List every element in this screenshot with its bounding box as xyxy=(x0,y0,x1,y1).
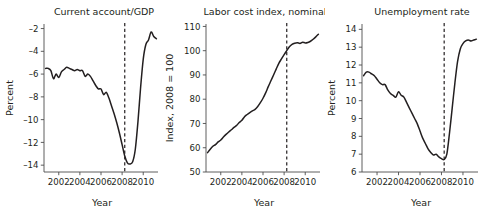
y-tick-label: 60 xyxy=(190,143,201,153)
y-tick-label: 10 xyxy=(346,96,357,106)
y-tick-label: –4 xyxy=(29,46,39,56)
x-tick-label: 2004 xyxy=(388,177,410,187)
x-tick-label: 2010 xyxy=(132,177,154,187)
x-tick-label: 2002 xyxy=(366,177,388,187)
y-axis-title: Percent xyxy=(326,80,337,116)
y-tick-label: 7 xyxy=(351,149,356,159)
series-line xyxy=(364,39,477,160)
x-axis-ticks: 20022004200620082010 xyxy=(366,172,474,187)
y-tick-label: –12 xyxy=(23,138,38,148)
y-axis-ticks: –2–4–6–8–10–12–14 xyxy=(23,24,44,171)
x-tick-label: 2002 xyxy=(48,177,70,187)
y-tick-label: 110 xyxy=(184,22,200,32)
y-tick-label: –8 xyxy=(29,92,39,102)
y-tick-label: 50 xyxy=(190,167,201,177)
x-tick-label: 2008 xyxy=(273,177,295,187)
panel-title: Labor cost index, nominal xyxy=(204,6,325,17)
x-tick-label: 2010 xyxy=(452,177,474,187)
y-tick-label: –2 xyxy=(29,24,39,34)
chart-panel-1: Current account/GDP–2–4–6–8–10–12–142002… xyxy=(0,0,163,218)
y-tick-label: 12 xyxy=(346,60,357,70)
series-line xyxy=(208,34,319,152)
x-tick-label: 2010 xyxy=(294,177,316,187)
y-tick-label: 13 xyxy=(346,42,357,52)
y-tick-label: 11 xyxy=(346,78,357,88)
x-tick-label: 2006 xyxy=(252,177,274,187)
x-tick-label: 2002 xyxy=(210,177,232,187)
x-tick-label: 2008 xyxy=(431,177,453,187)
x-tick-label: 2006 xyxy=(409,177,431,187)
figure-three-panel-line-charts: Current account/GDP–2–4–6–8–10–12–142002… xyxy=(0,0,489,218)
panel-title: Current account/GDP xyxy=(54,6,154,17)
x-axis-title: Year xyxy=(91,197,112,208)
y-tick-label: 8 xyxy=(351,131,356,141)
y-tick-label: 90 xyxy=(190,70,201,80)
x-tick-label: 2004 xyxy=(231,177,253,187)
x-axis-ticks: 20022004200620082010 xyxy=(48,172,154,187)
y-tick-label: –6 xyxy=(29,69,39,79)
x-axis-title: Year xyxy=(410,197,431,208)
series-line xyxy=(46,32,157,164)
x-tick-label: 2008 xyxy=(111,177,133,187)
x-axis-ticks: 20022004200620082010 xyxy=(210,172,316,187)
chart-panel-3: Unemployment rate67891011121314200220042… xyxy=(322,0,489,218)
y-axis-ticks: 67891011121314 xyxy=(346,24,362,177)
y-tick-label: 100 xyxy=(184,46,200,56)
y-tick-label: 9 xyxy=(351,114,356,124)
y-axis-title: Percent xyxy=(4,80,15,116)
y-axis-ticks: 5060708090100110 xyxy=(184,22,206,178)
y-axis-title: Index, 2008 = 100 xyxy=(164,54,175,143)
x-tick-label: 2006 xyxy=(90,177,112,187)
y-tick-label: 80 xyxy=(190,94,201,104)
chart-panel-2: Labor cost index, nominal506070809010011… xyxy=(160,0,325,218)
x-axis-title: Year xyxy=(253,197,274,208)
y-tick-label: –14 xyxy=(23,160,38,170)
y-tick-label: 6 xyxy=(351,167,356,177)
x-tick-label: 2004 xyxy=(69,177,91,187)
y-tick-label: 70 xyxy=(190,119,201,129)
y-tick-label: 14 xyxy=(346,24,357,34)
y-tick-label: –10 xyxy=(23,115,38,125)
panel-title: Unemployment rate xyxy=(374,6,469,17)
